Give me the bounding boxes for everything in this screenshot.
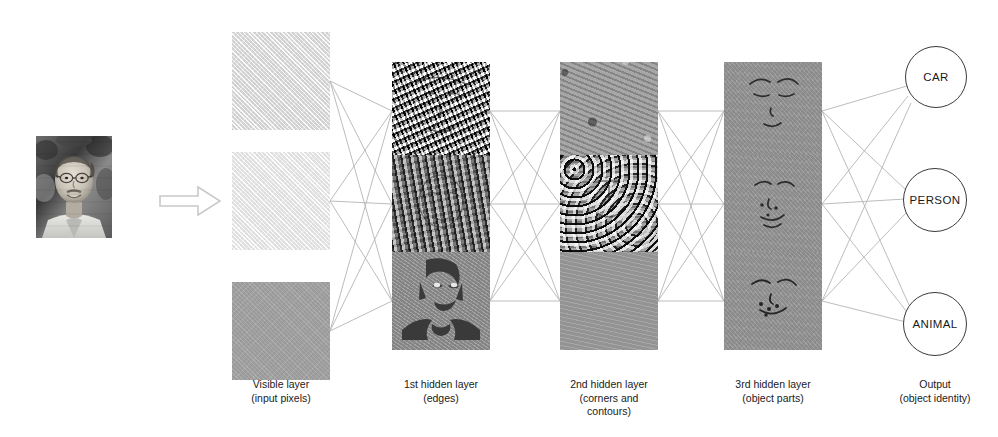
visible-unit-1: [232, 32, 330, 130]
hidden3-unit-3: [724, 252, 822, 350]
arrow-right-icon: [158, 184, 222, 218]
caption-hidden1-line2: (edges): [376, 392, 506, 406]
hidden1-unit-2: [392, 155, 490, 253]
caption-hidden2-line1: 2nd hidden layer: [544, 378, 674, 392]
hidden3-unit-1: [724, 62, 822, 160]
caption-hidden2-line2: (corners and: [544, 392, 674, 406]
output-node-animal[interactable]: ANIMAL: [903, 292, 967, 356]
output-label-person: PERSON: [910, 194, 961, 206]
caption-hidden1-line1: 1st hidden layer: [376, 378, 506, 392]
connection-edges: [0, 0, 998, 437]
visible-unit-2: [232, 152, 330, 250]
caption-visible-line2: (input pixels): [216, 392, 346, 406]
output-node-person[interactable]: PERSON: [903, 168, 967, 232]
input-photograph: [36, 136, 112, 238]
caption-hidden3-line2: (object parts): [708, 392, 838, 406]
caption-hidden1: 1st hidden layer (edges): [376, 378, 506, 405]
caption-hidden2-line3: contours): [544, 405, 674, 419]
caption-output-line2: (object identity): [870, 392, 998, 406]
caption-output: Output (object identity): [870, 378, 998, 405]
output-label-car: CAR: [923, 71, 948, 83]
hidden1-unit-3: [392, 252, 490, 350]
hidden2-unit-1: [560, 62, 658, 160]
hidden1-unit-1: [392, 62, 490, 160]
output-label-animal: ANIMAL: [912, 318, 957, 330]
hidden3-unit-2: [724, 155, 822, 253]
caption-output-line1: Output: [870, 378, 998, 392]
diagram-canvas: CAR PERSON ANIMAL Visible layer (input p…: [0, 0, 998, 437]
caption-hidden3: 3rd hidden layer (object parts): [708, 378, 838, 405]
hidden2-unit-2: [560, 155, 658, 253]
hidden2-unit-3: [560, 252, 658, 350]
visible-unit-3: [232, 282, 330, 380]
caption-hidden2: 2nd hidden layer (corners and contours): [544, 378, 674, 419]
caption-hidden3-line1: 3rd hidden layer: [708, 378, 838, 392]
caption-visible-layer: Visible layer (input pixels): [216, 378, 346, 405]
output-node-car[interactable]: CAR: [905, 46, 967, 108]
caption-visible-line1: Visible layer: [216, 378, 346, 392]
